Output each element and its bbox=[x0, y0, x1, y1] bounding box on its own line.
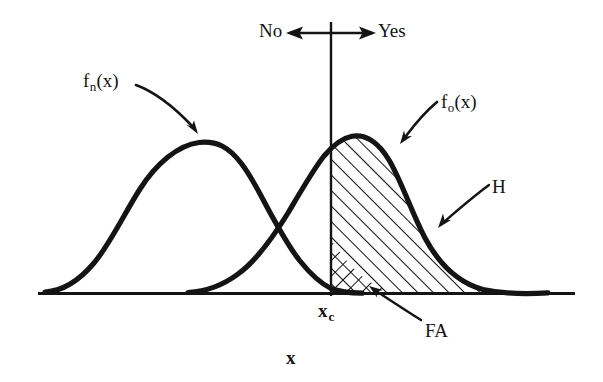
decision-label-no: No bbox=[259, 21, 282, 40]
x-axis-label: x bbox=[286, 348, 296, 367]
fo-suffix: (x) bbox=[454, 91, 476, 112]
signal-detection-figure: No Yes fn(x) fo(x) H FA xc x bbox=[0, 0, 603, 382]
figure-canvas bbox=[0, 0, 603, 382]
fn-pointer-arrow bbox=[136, 85, 198, 134]
fo-pointer-arrow bbox=[400, 102, 437, 144]
hits-pointer-arrow bbox=[438, 185, 489, 228]
criterion-subscript: c bbox=[328, 309, 335, 324]
decision-label-yes: Yes bbox=[378, 21, 406, 40]
false-alarms-label: FA bbox=[425, 321, 448, 340]
signal-distribution-label: fo(x) bbox=[441, 92, 477, 114]
fn-suffix: (x) bbox=[96, 70, 118, 91]
noise-distribution-label: fn(x) bbox=[83, 71, 119, 93]
noise-distribution-curve bbox=[45, 142, 362, 293]
hits-region bbox=[325, 125, 560, 297]
criterion-label: xc bbox=[318, 301, 334, 323]
criterion-base: x bbox=[318, 300, 328, 321]
hits-label: H bbox=[492, 177, 506, 196]
